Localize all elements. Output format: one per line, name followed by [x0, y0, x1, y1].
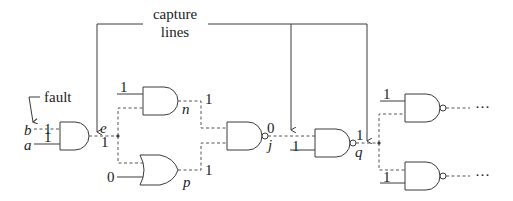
capture-label-line1: capture [153, 6, 197, 22]
net-label-j: j [266, 137, 272, 153]
net-label-q: q [355, 144, 363, 160]
value-n-side: 1 [120, 79, 128, 95]
fault-label: fault [44, 89, 72, 105]
value-n: 1 [205, 91, 213, 107]
capture-label-line2: lines [161, 24, 189, 40]
ellipsis-r2: ··· [475, 167, 490, 183]
wire-q-to-r1 [379, 114, 405, 143]
wire-e-to-n [118, 108, 143, 136]
value-p-side: 0 [107, 169, 115, 185]
value-e: 1 [101, 134, 109, 150]
value-j: 0 [267, 120, 275, 136]
nand-bubble-r1 [440, 105, 446, 111]
value-q-side: 1 [292, 138, 300, 154]
wire-p [178, 143, 227, 170]
value-r1-side: 1 [383, 86, 391, 102]
net-label-p: p [182, 174, 191, 190]
ellipsis-r1: ··· [475, 99, 490, 115]
value-p: 1 [205, 162, 213, 178]
circuit-diagram: capture lines fault b 1 a 1 e 1 1 n 1 0 … [0, 0, 513, 201]
nand-bubble-r2 [440, 173, 446, 179]
or-gate-p [140, 155, 178, 185]
net-label-b: b [24, 122, 32, 138]
nand-gate-j [227, 122, 262, 150]
net-label-a: a [24, 137, 32, 153]
nand-gate-r1 [405, 94, 440, 122]
wire-e-to-p [118, 136, 143, 163]
wire-q-to-r2 [379, 143, 405, 170]
capture-arrow-e [97, 24, 143, 132]
value-q: 1 [356, 127, 364, 143]
fault-annotation: fault [29, 89, 72, 122]
nand-gate-q [315, 129, 350, 157]
net-label-n: n [182, 101, 190, 117]
and-gate-n [143, 87, 178, 115]
nand-gate-r2 [405, 162, 440, 190]
value-a: 1 [44, 129, 52, 145]
fault-arrow [29, 97, 40, 122]
capture-lines-annotation: capture lines [97, 6, 367, 141]
and-gate-e [60, 122, 89, 150]
